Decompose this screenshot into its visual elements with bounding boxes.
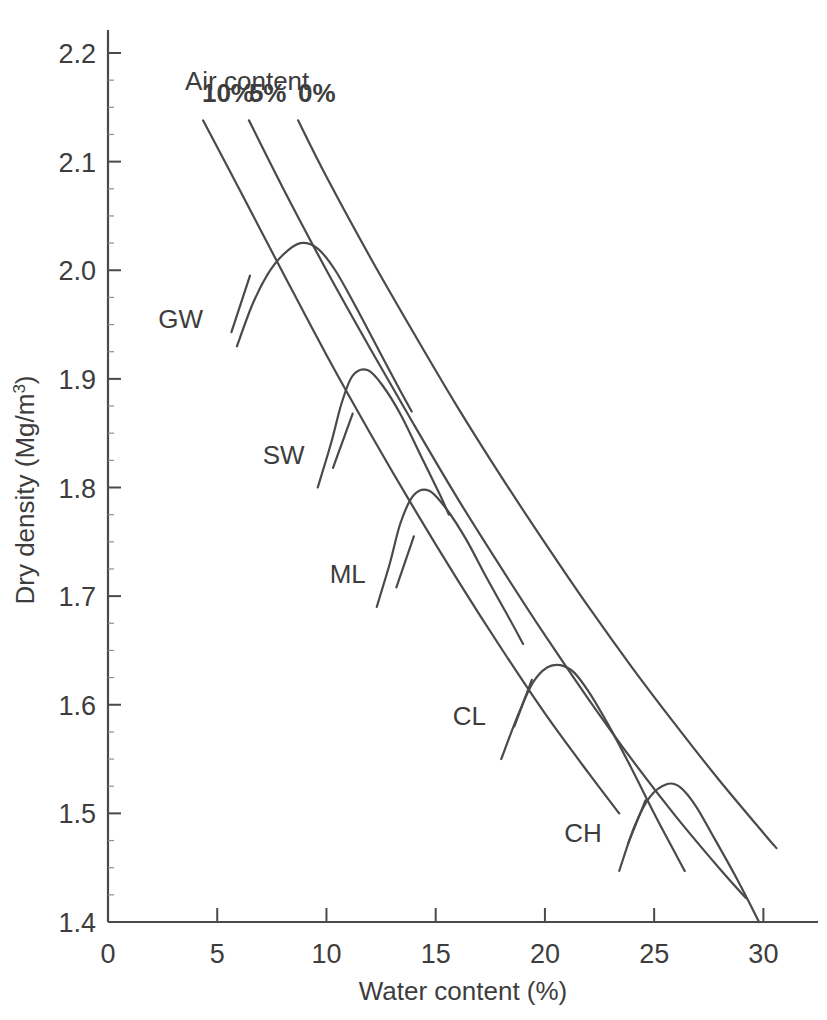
y-axis-tick-label: 1.5: [58, 799, 96, 829]
soil-compaction-curves: [237, 243, 759, 922]
y-axis-tick-label: 2.0: [58, 256, 96, 286]
y-axis-tick-label: 2.1: [58, 148, 96, 178]
air-content-lines: [203, 120, 776, 898]
axis-lines: [108, 30, 818, 922]
air-content-legend-title: Air content: [185, 66, 310, 96]
soil-curve-labels: GWSWMLCLCH: [158, 304, 601, 848]
y-axis-tick-label: 2.2: [58, 39, 96, 69]
x-axis-tick-label: 15: [421, 939, 451, 969]
x-axis-title: Water content (%): [359, 976, 568, 1006]
x-axis-ticks: [108, 908, 763, 922]
soil-curve-label: SW: [263, 440, 305, 470]
soil-curve: [318, 370, 449, 515]
x-axis-tick-label: 10: [311, 939, 341, 969]
y-axis-tick-labels: 1.41.51.61.71.81.92.02.12.2: [58, 39, 96, 938]
compaction-curves-chart: 1.41.51.61.71.81.92.02.12.2 051015202530…: [0, 0, 827, 1020]
curve-label-leader-line: [396, 536, 413, 587]
curve-label-leader-line: [514, 680, 531, 727]
y-axis-tick-label: 1.4: [58, 908, 96, 938]
x-axis-tick-label: 25: [639, 939, 669, 969]
air-content-line: [298, 120, 776, 848]
soil-curve-label: GW: [158, 304, 203, 334]
chart-container: 1.41.51.61.71.81.92.02.12.2 051015202530…: [0, 0, 827, 1020]
soil-curve-label: ML: [330, 559, 366, 589]
curve-label-leader-line: [231, 276, 250, 332]
y-axis-tick-label: 1.7: [58, 582, 96, 612]
x-axis-tick-labels: 051015202530: [100, 939, 778, 969]
x-axis-tick-label: 30: [748, 939, 778, 969]
x-axis-tick-label: 0: [100, 939, 115, 969]
y-axis-tick-label: 1.9: [58, 365, 96, 395]
x-axis-tick-label: 20: [530, 939, 560, 969]
y-axis-ticks: [108, 53, 121, 922]
air-content-line: [249, 120, 746, 898]
curve-label-leader-lines: [231, 276, 645, 844]
x-axis-tick-label: 5: [210, 939, 225, 969]
y-axis-tick-label: 1.6: [58, 691, 96, 721]
y-axis-tick-label: 1.8: [58, 474, 96, 504]
curve-label-leader-line: [628, 800, 645, 843]
soil-curve-label: CL: [453, 701, 486, 731]
y-axis-title: Dry density (Mg/m3): [10, 375, 40, 604]
soil-curve-label: CH: [564, 818, 602, 848]
